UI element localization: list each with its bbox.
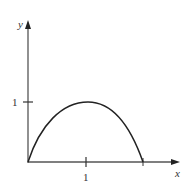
chart-canvas: y x 1 1 (0, 0, 192, 191)
x-tick-label: 1 (83, 171, 89, 183)
y-axis-arrow-icon (25, 20, 31, 29)
y-axis-label: y (17, 18, 23, 30)
y-tick-label: 1 (12, 96, 18, 108)
curve (28, 102, 143, 162)
x-axis-arrow-icon (171, 159, 180, 165)
x-axis-label: x (174, 167, 180, 179)
